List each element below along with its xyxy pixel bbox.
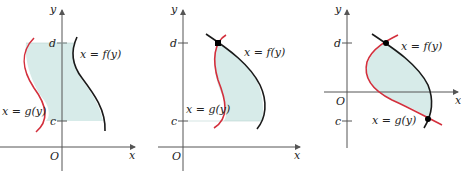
x-axis-label: x	[455, 94, 461, 107]
origin-label: O	[172, 150, 181, 163]
g-curve-label: x = g(y)	[2, 105, 46, 118]
panel-1: y x O d c x = f(y) x = g(y)	[0, 3, 136, 171]
origin-label: O	[50, 150, 59, 163]
tick-label-d: d	[170, 37, 177, 50]
shaded-region	[367, 43, 431, 119]
panel-3: y x O d c x = f(y) x = g(y)	[324, 3, 461, 148]
panel-2: y x O d c x = f(y) x = g(y)	[158, 3, 301, 171]
f-curve-label: x = f(y)	[80, 48, 121, 61]
y-axis-label: y	[170, 3, 178, 16]
f-curve-label: x = f(y)	[244, 46, 285, 59]
intersection-point	[215, 40, 221, 46]
intersection-point-bottom	[425, 116, 431, 122]
tick-label-c: c	[50, 115, 56, 128]
origin-label: O	[336, 95, 345, 108]
tick-label-d: d	[49, 37, 56, 50]
tick-label-c: c	[335, 115, 341, 128]
g-curve-label: x = g(y)	[372, 114, 416, 127]
intersection-point-top	[383, 40, 389, 46]
tick-label-d: d	[334, 37, 341, 50]
tick-label-c: c	[171, 115, 177, 128]
x-axis-label: x	[129, 149, 136, 162]
y-axis-label: y	[49, 3, 57, 16]
y-axis-label: y	[334, 3, 342, 16]
x-axis-label: x	[294, 149, 301, 162]
f-curve-label: x = f(y)	[401, 40, 442, 53]
area-between-curves-diagram: y x O d c x = f(y) x = g(y) y x O d c x …	[0, 0, 461, 171]
g-curve-label: x = g(y)	[186, 103, 230, 116]
